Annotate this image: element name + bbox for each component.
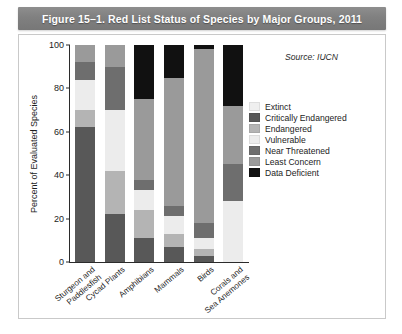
legend-label: Vulnerable: [265, 135, 306, 145]
bar-segment: [194, 223, 214, 238]
legend-item-6[interactable]: Data Deficient: [249, 167, 347, 178]
legend-swatch-icon: [249, 157, 260, 166]
y-axis-line: [69, 45, 70, 262]
bar-segment: [164, 45, 184, 78]
bar-segment: [164, 216, 184, 233]
bar-segment: [134, 45, 154, 99]
legend-item-4[interactable]: Near Threatened: [249, 145, 347, 156]
bar-segment: [194, 238, 214, 249]
legend-item-0[interactable]: Extinct: [249, 101, 347, 112]
bar-segment: [194, 249, 214, 256]
plot-area: [70, 45, 248, 262]
legend-label: Least Concern: [265, 157, 321, 167]
source-note: Source: IUCN: [285, 52, 338, 62]
bar-segment: [75, 45, 95, 62]
bar-segment: [105, 45, 125, 67]
legend-label: Near Threatened: [265, 146, 330, 156]
bar-segment: [105, 214, 125, 262]
x-axis-line: [69, 262, 249, 263]
legend-item-2[interactable]: Endangered: [249, 123, 347, 134]
bar-segment: [105, 171, 125, 214]
bar-segment: [105, 110, 125, 171]
bar-4[interactable]: [194, 45, 214, 262]
legend-label: Extinct: [265, 102, 291, 112]
figure-title-band: Figure 15–1. Red List Status of Species …: [18, 7, 386, 30]
bar-3[interactable]: [164, 45, 184, 262]
bar-segment: [164, 206, 184, 217]
chart-legend: ExtinctCritically EndangeredEndangeredVu…: [249, 101, 347, 178]
legend-swatch-icon: [249, 124, 260, 133]
bar-segment: [75, 80, 95, 110]
legend-item-5[interactable]: Least Concern: [249, 156, 347, 167]
y-axis-title: Percent of Evaluated Species: [27, 45, 41, 262]
bar-2[interactable]: [134, 45, 154, 262]
bar-segment: [75, 127, 95, 262]
y-axis-tick-label: 20: [54, 214, 64, 224]
bar-segment: [134, 180, 154, 191]
bar-segment: [134, 99, 154, 179]
legend-label: Data Deficient: [265, 168, 319, 178]
y-axis-title-text: Percent of Evaluated Species: [29, 94, 39, 212]
bar-segment: [164, 234, 184, 247]
bar-5[interactable]: [223, 45, 243, 262]
legend-item-1[interactable]: Critically Endangered: [249, 112, 347, 123]
y-axis-tick-label: 60: [54, 127, 64, 137]
bar-segment: [134, 238, 154, 262]
legend-label: Endangered: [265, 124, 312, 134]
bar-segment: [223, 45, 243, 106]
legend-label: Critically Endangered: [265, 113, 347, 123]
legend-swatch-icon: [249, 102, 260, 111]
bar-segment: [223, 164, 243, 201]
bar-segment: [194, 45, 214, 49]
bar-segment: [134, 190, 154, 210]
y-axis-tick-label: 0: [59, 257, 64, 267]
bar-segment: [75, 110, 95, 127]
bar-segment: [164, 78, 184, 206]
legend-swatch-icon: [249, 113, 260, 122]
bar-segment: [164, 247, 184, 262]
bar-segment: [223, 106, 243, 165]
y-axis-tick-label: 80: [54, 83, 64, 93]
bar-0[interactable]: [75, 45, 95, 262]
bar-segment: [134, 210, 154, 238]
legend-swatch-icon: [249, 146, 260, 155]
bar-segment: [105, 67, 125, 110]
figure-page: Figure 15–1. Red List Status of Species …: [0, 0, 402, 334]
legend-item-3[interactable]: Vulnerable: [249, 134, 347, 145]
bar-segment: [75, 62, 95, 79]
figure-title: Figure 15–1. Red List Status of Species …: [42, 13, 362, 25]
bar-segment: [223, 201, 243, 262]
y-axis-tick-label: 40: [54, 170, 64, 180]
bar-segment: [194, 49, 214, 223]
legend-swatch-icon: [249, 135, 260, 144]
bar-segment: [194, 256, 214, 263]
y-axis-tick-label: 100: [49, 40, 64, 50]
bar-1[interactable]: [105, 45, 125, 262]
legend-swatch-icon: [249, 168, 260, 177]
